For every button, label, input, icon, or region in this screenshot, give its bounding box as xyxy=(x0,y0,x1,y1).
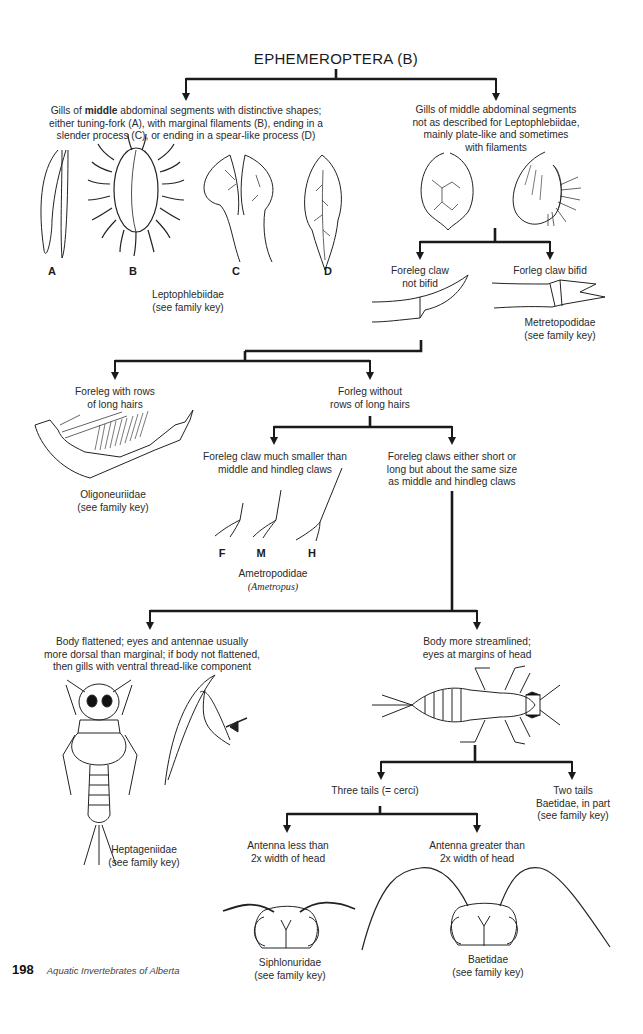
genus-name: (Ametropus) xyxy=(248,581,299,592)
family-ametropodidae: Ametropodidae (Ametropus) xyxy=(238,568,307,593)
family-oligoneuriidae: Oligoneuriidae (see family key) xyxy=(77,489,148,514)
heptageniidae-illustration xyxy=(63,680,137,865)
node-text: Gills of middle abdominal segments xyxy=(416,104,577,115)
family-baetidae: Baetidae (see family key) xyxy=(452,954,523,979)
foreleg-hairs-illustration xyxy=(35,410,193,478)
node-without-rows: Forleg without rows of long hairs xyxy=(330,386,410,411)
node-text: as middle and hindleg claws xyxy=(388,476,515,487)
family-leptophlebiidae: Leptophlebiidae (see family key) xyxy=(152,289,224,314)
gill-d-illustration xyxy=(305,155,342,270)
baetidae-head-illustration xyxy=(362,868,610,950)
family-metretopodidae: Metretopodidae (see family key) xyxy=(524,317,595,342)
node-body-streamlined: Body more streamlined; eyes at margins o… xyxy=(423,636,532,661)
node-text: with filaments xyxy=(465,142,527,153)
node-text: Forleg without xyxy=(338,386,402,397)
node-text: not as described for Leptophlebiidae, xyxy=(412,117,579,128)
claw-label-f: F xyxy=(219,547,226,559)
node-text: mainly plate-like and sometimes xyxy=(424,129,569,140)
node-gills-distinctive: Gills of middle abdominal segments with … xyxy=(49,105,323,143)
family-siphlonuridae: Siphlonuridae (see family key) xyxy=(254,957,325,982)
claw-label-h: H xyxy=(308,547,316,559)
streamlined-nymph-illustration xyxy=(372,666,560,744)
node-text: eyes at margins of head xyxy=(423,649,532,660)
node-claw-not-bifid: Foreleg claw not bifid xyxy=(391,265,449,290)
node-text: Foreleg claw much smaller than xyxy=(203,451,347,462)
gill-label-b: B xyxy=(129,265,137,277)
node-text: 2x width of head xyxy=(251,853,325,864)
node-text: Antenna greater than xyxy=(429,840,525,851)
filament-gill-illustration xyxy=(513,152,581,226)
family-name: Oligoneuriidae xyxy=(80,489,146,500)
gill-label-c: C xyxy=(232,265,240,277)
claw-bifid-illustration xyxy=(492,280,605,308)
family-name: Ametropodidae xyxy=(238,568,307,579)
siphlonuridae-head-illustration xyxy=(223,903,355,948)
node-rows-long-hairs: Foreleg with rows of long hairs xyxy=(75,386,155,411)
ventral-gill-illustration xyxy=(165,675,247,785)
family-name: Leptophlebiidae xyxy=(152,289,224,300)
node-claw-bifid: Forleg claw bifid xyxy=(513,265,587,278)
plate-gill-illustration xyxy=(421,153,473,230)
gill-a-illustration xyxy=(41,150,68,258)
node-three-tails: Three tails (= cerci) xyxy=(331,785,418,798)
node-antenna-greater: Antenna greater than 2x width of head xyxy=(429,840,525,865)
node-text: long but about the same size xyxy=(387,464,517,475)
node-text-bold: middle xyxy=(85,105,118,116)
family-note: (see family key) xyxy=(77,502,148,513)
node-text: either tuning-fork (A), with marginal fi… xyxy=(49,118,323,129)
book-title: Aquatic Invertebrates of Alberta xyxy=(47,965,180,976)
node-text: more dorsal than marginal; if body not f… xyxy=(44,649,260,660)
family-note: (see family key) xyxy=(108,857,179,868)
connector-lines xyxy=(115,69,572,828)
node-claw-smaller: Foreleg claw much smaller than middle an… xyxy=(203,451,347,476)
node-antenna-less: Antenna less than 2x width of head xyxy=(247,840,329,865)
node-text: then gills with ventral thread-like comp… xyxy=(53,661,251,672)
claw-label-m: M xyxy=(256,547,265,559)
family-note: (see family key) xyxy=(452,967,523,978)
node-text: (see family key) xyxy=(537,810,608,821)
family-note: (see family key) xyxy=(254,970,325,981)
gill-label-d: D xyxy=(324,265,332,277)
gill-c-illustration xyxy=(204,155,273,262)
fmh-claws-illustration xyxy=(215,468,342,541)
node-claws-same: Foreleg claws either short or long but a… xyxy=(387,451,517,489)
node-text: abdominal segments with distinctive shap… xyxy=(117,105,321,116)
node-text: Foreleg claw xyxy=(391,265,449,276)
gill-label-a: A xyxy=(48,265,56,277)
family-note: (see family key) xyxy=(152,302,223,313)
page-footer: 198 Aquatic Invertebrates of Alberta xyxy=(12,962,180,977)
node-text: middle and hindleg claws xyxy=(218,464,332,475)
node-text: Body more streamlined; xyxy=(423,636,531,647)
node-text: 2x width of head xyxy=(440,853,514,864)
family-name: Siphlonuridae xyxy=(259,957,321,968)
key-title: EPHEMEROPTERA (B) xyxy=(254,50,418,67)
node-text: Foreleg with rows xyxy=(75,386,155,397)
node-text: rows of long hairs xyxy=(330,399,410,410)
node-body-flattened: Body flattened; eyes and antennae usuall… xyxy=(44,636,260,674)
node-text: not bifid xyxy=(402,278,438,289)
node-text: Two tails xyxy=(553,785,593,796)
node-text: slender process (C), or ending in a spea… xyxy=(57,130,316,141)
family-name: Baetidae xyxy=(468,954,508,965)
node-text: Body flattened; eyes and antennae usuall… xyxy=(56,636,248,647)
node-text: Gills of xyxy=(51,105,85,116)
node-text: Baetidae, in part xyxy=(536,798,610,809)
family-name: Metretopodidae xyxy=(525,317,596,328)
gill-b-illustration xyxy=(88,134,184,256)
page-number: 198 xyxy=(12,962,34,977)
node-gills-plate: Gills of middle abdominal segments not a… xyxy=(412,104,579,154)
node-two-tails: Two tails Baetidae, in part (see family … xyxy=(536,785,610,823)
node-text: Antenna less than xyxy=(247,840,329,851)
node-text: Foreleg claws either short or xyxy=(388,451,517,462)
family-note: (see family key) xyxy=(524,330,595,341)
key-diagram xyxy=(0,0,643,1034)
family-name: Heptageniidae xyxy=(111,844,177,855)
family-heptageniidae: Heptageniidae (see family key) xyxy=(108,844,179,869)
node-text: of long hairs xyxy=(87,399,143,410)
